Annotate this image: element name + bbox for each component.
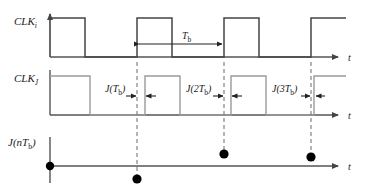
clk-ideal-axis-label: t — [348, 52, 351, 63]
jitter-label-2: J(2Tb) — [186, 83, 212, 97]
timing-diagram-figure: CLKi t Tb CLKJ t J(Tb) — [0, 0, 368, 187]
sample-dot-3 — [306, 152, 315, 161]
jitter-annotations: J(Tb) J(2Tb) J(3Tb) — [105, 83, 325, 97]
signal-clk-jittered: CLKJ t — [14, 70, 351, 121]
sample-dot-2 — [219, 149, 228, 158]
jitter-label-3: J(3Tb) — [272, 83, 298, 97]
clk-jittered-axis-label: t — [348, 110, 351, 121]
clk-ideal-label: CLKi — [14, 15, 37, 30]
timing-diagram-canvas: CLKi t Tb CLKJ t J(Tb) — [0, 0, 368, 187]
signal-jitter-samples: J(nTb) t — [8, 136, 351, 184]
sample-dot-1 — [132, 174, 141, 183]
dashed-guides — [137, 62, 311, 180]
jitter-samples-axis-label: t — [348, 161, 351, 172]
sample-dot-0 — [46, 162, 54, 170]
jitter-label-1: J(Tb) — [105, 83, 126, 97]
clk-jittered-label: CLKJ — [14, 72, 39, 87]
signal-clk-ideal: CLKi t Tb — [14, 14, 351, 63]
jitter-samples-label: J(nTb) — [8, 136, 36, 151]
